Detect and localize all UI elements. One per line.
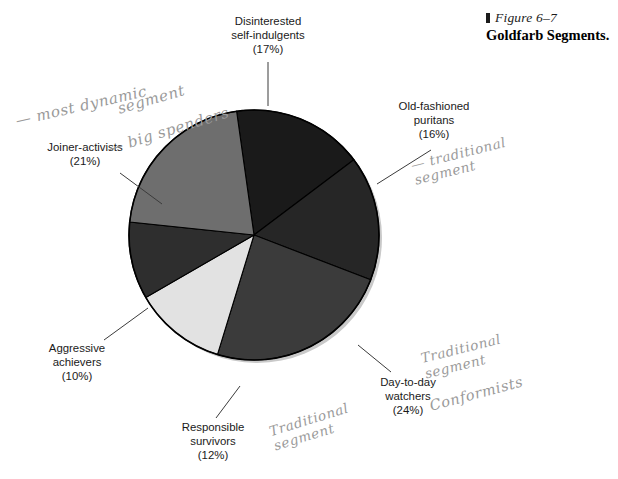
source-note bbox=[0, 470, 618, 479]
slice-label-responsible-survivors: Responsible survivors (12%) bbox=[158, 420, 268, 463]
figure-title: Goldfarb Segments. bbox=[486, 27, 612, 44]
handwritten-note-traditional-segment-puritans: — traditional segment bbox=[409, 135, 511, 188]
pie-slice-group bbox=[129, 110, 379, 360]
slice-percent: (12%) bbox=[158, 448, 268, 462]
figure-number-text: Figure 6–7 bbox=[495, 10, 557, 25]
slice-percent: (10%) bbox=[22, 369, 132, 383]
slice-percent: (21%) bbox=[18, 154, 152, 168]
slice-label-old-fashioned-puritans: Old-fashioned puritans (16%) bbox=[372, 99, 496, 142]
slice-label-line1: Old-fashioned bbox=[399, 100, 470, 112]
figure-caption: Figure 6–7 Goldfarb Segments. bbox=[486, 10, 612, 44]
pie-chart-svg bbox=[124, 104, 386, 366]
slice-label-line2: survivors bbox=[190, 435, 236, 447]
slice-label-line2: self-indulgents bbox=[231, 29, 304, 41]
handwritten-note-traditional-segment-daytoday: Traditional segment bbox=[419, 331, 506, 382]
slice-label-line1: Aggressive bbox=[49, 342, 105, 354]
slice-label-line2: puritans bbox=[414, 114, 455, 126]
slice-percent: (17%) bbox=[186, 42, 350, 56]
slice-label-line1: Responsible bbox=[182, 421, 245, 433]
slice-label-aggressive-achievers: Aggressive achievers (10%) bbox=[22, 341, 132, 384]
figure-number: Figure 6–7 bbox=[486, 10, 612, 26]
slice-label-line2: achievers bbox=[53, 356, 102, 368]
slice-label-disinterested-self-indulgents: Disinterested self-indulgents (17%) bbox=[186, 14, 350, 57]
pie-chart bbox=[124, 104, 386, 366]
handwritten-note-traditional-segment-responsible: Traditional segment bbox=[268, 401, 355, 454]
leader-line-responsible bbox=[216, 386, 240, 418]
caption-bullet-icon bbox=[486, 13, 490, 23]
slice-label-line2: watchers bbox=[385, 390, 431, 402]
slice-label-line1: Disinterested bbox=[235, 15, 301, 27]
